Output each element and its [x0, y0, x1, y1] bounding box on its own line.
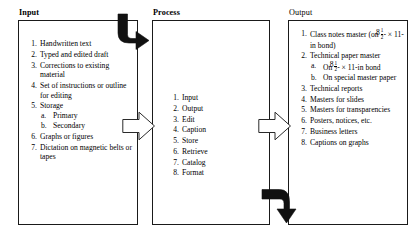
item-number: 7.	[160, 158, 179, 168]
fraction-denominator: 2	[334, 66, 337, 72]
item-number: 4.	[26, 81, 37, 91]
arrow-right-hollow-icon	[122, 110, 156, 142]
item-number: 2.	[26, 50, 37, 60]
list-item: 8. Captions on graphs	[296, 138, 404, 148]
item-text: Caption	[182, 125, 266, 135]
list-item: 5. Masters for transparencies	[296, 105, 404, 115]
list-item: 3. Technical reports	[296, 84, 404, 94]
box-process-content: 1. Input 2. Output 3. Edit 4. Caption	[153, 93, 269, 179]
box-output-content: 1. Class notes master (on 812- × 11-in b…	[289, 29, 407, 149]
item-text: Masters for transparencies	[310, 105, 404, 115]
sublist-item: b. On special master paper	[310, 73, 404, 83]
list-item: 1. Class notes master (on 812- × 11-in b…	[296, 29, 404, 50]
list-item: 3. Corrections to existing material	[26, 61, 134, 80]
item-number: 5.	[160, 136, 179, 146]
item-number: 8.	[296, 138, 307, 148]
item-number: 7.	[26, 143, 37, 153]
item-text: Format	[182, 168, 266, 178]
item-number: 6.	[296, 116, 307, 126]
item-number: 1.	[296, 29, 307, 39]
column-process: Process 1. Input 2. Output 3. Edit	[152, 0, 270, 225]
item-number: 6.	[160, 147, 179, 157]
item-text: Output	[182, 104, 266, 114]
arrow-right-hollow-icon	[258, 110, 292, 142]
fraction-numerator: 1	[381, 28, 384, 33]
fraction-eight-and-half: 812	[381, 28, 384, 40]
list-item: 5. Store	[160, 136, 266, 146]
list-item: 3. Edit	[160, 115, 266, 125]
item-number: 3.	[296, 84, 307, 94]
item-number: 6.	[26, 132, 37, 142]
subitem-letter: a.	[41, 111, 49, 121]
list-item: 2. Output	[160, 104, 266, 114]
sublist-technical-paper-master: a. On 812- × 11-in bond b. On special ma…	[310, 61, 404, 82]
list-item: 2. Technical paper master a. On 812- × 1…	[296, 51, 404, 82]
list-input: 1. Handwritten text 2. Typed and edited …	[26, 39, 134, 162]
item-number: 3.	[160, 115, 179, 125]
list-item: 5. Storage a. Primary b. Secondary	[26, 101, 134, 130]
item-text: Input	[182, 93, 266, 103]
sublist-storage: a. Primary b. Secondary	[40, 111, 134, 130]
item-number: 3.	[26, 61, 37, 71]
item-text: Retrieve	[182, 147, 266, 157]
column-title-process: Process	[152, 8, 270, 18]
list-item: 6. Graphs or figures	[26, 132, 134, 142]
item-number: 1.	[26, 39, 37, 49]
fraction-whole: 8	[376, 29, 380, 37]
column-output: Output 1. Class notes master (on 812- × …	[288, 0, 408, 225]
list-process: 1. Input 2. Output 3. Edit 4. Caption	[160, 93, 266, 178]
column-title-output: Output	[288, 8, 408, 18]
arrow-down-then-right-icon	[112, 14, 152, 52]
item-text: Edit	[182, 115, 266, 125]
fraction-whole: 8	[330, 61, 334, 69]
item-number: 1.	[160, 93, 179, 103]
sublist-item: a. On 812- × 11-in bond	[310, 61, 404, 73]
item-text: Posters, notices, etc.	[310, 116, 404, 126]
subitem-letter: a.	[311, 61, 319, 71]
item-text: Catalog	[182, 158, 266, 168]
fraction-eight-and-half: 812	[334, 61, 337, 73]
item-number: 5.	[296, 105, 307, 115]
box-output: 1. Class notes master (on 812- × 11-in b…	[288, 20, 408, 225]
item-text: Set of instructions or outline for editi…	[40, 81, 134, 100]
item-number: 5.	[26, 101, 37, 111]
list-item: 6. Retrieve	[160, 147, 266, 157]
item-text: Technical paper master	[310, 51, 404, 61]
subitem-letter: b.	[41, 121, 49, 131]
subitem-text: Secondary	[53, 121, 85, 130]
subitem-text: On special master paper	[323, 73, 396, 82]
arrow-right-then-down-icon	[262, 188, 302, 228]
item-text: Corrections to existing material	[40, 61, 134, 80]
list-item: 4. Set of instructions or outline for ed…	[26, 81, 134, 100]
list-item: 7. Dictation on magnetic belts or tapes	[26, 143, 134, 162]
subitem-text: On 812- × 11-in bond	[323, 63, 381, 72]
subitem-text: Primary	[53, 111, 77, 120]
item-text: Graphs or figures	[40, 132, 134, 142]
item-text: Store	[182, 136, 266, 146]
subitem-letter: b.	[311, 73, 319, 83]
item-number: 7.	[296, 127, 307, 137]
item-text: Business letters	[310, 127, 404, 137]
list-item: 4. Masters for slides	[296, 95, 404, 105]
list-item: 7. Business letters	[296, 127, 404, 137]
fraction-denominator: 2	[381, 34, 384, 40]
list-item: 7. Catalog	[160, 158, 266, 168]
sublist-item: a. Primary	[40, 111, 134, 121]
list-item: 6. Posters, notices, etc.	[296, 116, 404, 126]
item-text: Masters for slides	[310, 95, 404, 105]
item-number: 8.	[160, 168, 179, 178]
list-item: 8. Format	[160, 168, 266, 178]
item-text: Dictation on magnetic belts or tapes	[40, 143, 134, 162]
item-number: 2.	[160, 104, 179, 114]
item-text: Storage	[40, 101, 134, 111]
list-item: 4. Caption	[160, 125, 266, 135]
box-process: 1. Input 2. Output 3. Edit 4. Caption	[152, 20, 270, 225]
item-text: Technical reports	[310, 84, 404, 94]
subitem-text-after: - × 11-in bond	[337, 63, 380, 72]
list-output: 1. Class notes master (on 812- × 11-in b…	[296, 29, 404, 147]
box-input-content: 1. Handwritten text 2. Typed and edited …	[19, 39, 137, 163]
item-text: Class notes master (on 812- × 11-in bond…	[310, 29, 404, 50]
item-text: Captions on graphs	[310, 138, 404, 148]
item-number: 4.	[160, 125, 179, 135]
sublist-item: b. Secondary	[40, 121, 134, 131]
